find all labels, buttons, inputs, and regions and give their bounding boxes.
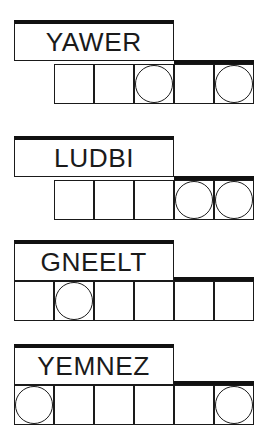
answer-cell[interactable] (174, 385, 214, 425)
scrambled-word-box: LUDBI (14, 136, 174, 177)
scrambled-word-box: YAWER (14, 20, 174, 61)
answer-cell-circled[interactable] (14, 385, 54, 425)
answer-cell-circled[interactable] (214, 385, 254, 425)
answer-cell[interactable] (134, 385, 174, 425)
scrambled-word-box: YEMNEZ (14, 344, 174, 385)
scrambled-word: YEMNEZ (38, 352, 151, 381)
scrambled-word-box: GNEELT (14, 240, 174, 281)
answer-cell[interactable] (54, 385, 94, 425)
scrambled-word: YAWER (46, 28, 142, 57)
answer-cell[interactable] (54, 64, 94, 104)
answer-cell[interactable] (94, 385, 134, 425)
scrambled-word: GNEELT (41, 248, 147, 277)
answer-cell[interactable] (94, 64, 134, 104)
answer-cell[interactable] (214, 281, 254, 321)
answer-cell[interactable] (94, 180, 134, 220)
answer-cell[interactable] (54, 180, 94, 220)
answer-cell[interactable] (94, 281, 134, 321)
answer-cell[interactable] (134, 180, 174, 220)
answer-cell-circled[interactable] (54, 281, 94, 321)
answer-cell[interactable] (174, 64, 214, 104)
scrambled-word: LUDBI (54, 144, 134, 173)
answer-cell[interactable] (134, 281, 174, 321)
answer-cell-circled[interactable] (174, 180, 214, 220)
answer-cell-circled[interactable] (134, 64, 174, 104)
answer-cell[interactable] (174, 281, 214, 321)
answer-cell-circled[interactable] (214, 180, 254, 220)
answer-cell[interactable] (14, 281, 54, 321)
answer-cell-circled[interactable] (214, 64, 254, 104)
